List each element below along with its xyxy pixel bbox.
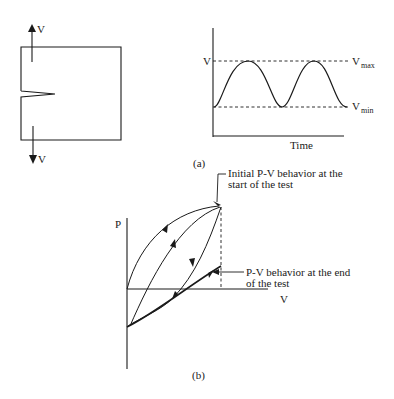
pv-curves [127, 206, 221, 327]
diagram-canvas [0, 0, 394, 399]
y-axis-label-p: P [115, 219, 121, 230]
x-axis-label-v: V [280, 294, 288, 305]
load-label-top: V [37, 24, 45, 35]
y-axis-label-v: V [203, 56, 211, 67]
vmax-main: V [352, 55, 360, 67]
loading-history-axes [213, 28, 344, 137]
vmin-sub: min [361, 106, 373, 115]
x-axis-label-time: Time [290, 140, 313, 151]
vmax-vmin-dashed-lines [213, 61, 350, 107]
annotation-end-line2: of the test [246, 278, 350, 289]
load-arrow-down-icon [29, 126, 37, 164]
vmax-sub: max [361, 61, 375, 70]
vmin-main: V [352, 100, 360, 112]
caption-b: (b) [192, 370, 205, 381]
vmax-label: Vmax [352, 56, 375, 68]
notched-specimen [21, 47, 121, 140]
caption-a: (a) [193, 158, 205, 169]
pv-axes [127, 218, 268, 369]
cyclic-load-curve [214, 61, 347, 107]
annotation-end: P-V behavior at the end of the test [246, 267, 350, 289]
annotation-initial: Initial P-V behavior at the start of the… [228, 168, 343, 190]
load-label-bottom: V [38, 154, 46, 165]
annotation-initial-line2: start of the test [228, 179, 343, 190]
load-arrow-up-icon [28, 24, 36, 62]
vmin-label: Vmin [352, 101, 373, 113]
